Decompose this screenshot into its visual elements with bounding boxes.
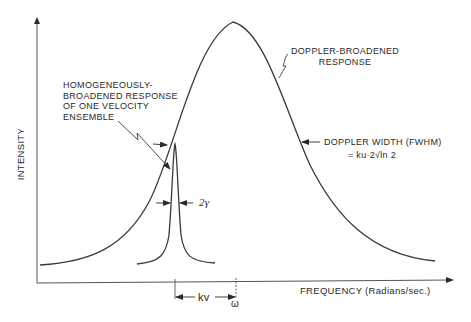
homogeneous-label-line-2: BROADENED RESPONSE	[63, 91, 178, 102]
x-axis-label: FREQUENCY (Radians/sec.)	[300, 286, 431, 297]
homogeneous-label-line-1: HOMOGENEOUSLY-	[63, 80, 178, 91]
y-axis-label: INTENSITY	[16, 130, 27, 180]
homogeneous-label-line-3: OF ONE VELOCITY	[63, 101, 178, 112]
doppler-pointer-arrow	[153, 144, 167, 145]
doppler-response-line-2: RESPONSE	[291, 57, 399, 68]
omega-label: ω	[231, 299, 239, 310]
doppler-response-leader	[279, 54, 288, 78]
doppler-response-label: DOPPLER-BROADENED RESPONSE	[291, 46, 399, 67]
linewidth-label: 2γ	[199, 197, 209, 208]
doppler-width-formula: = ku·2√ln 2	[348, 150, 396, 161]
kv-label: kv	[198, 292, 210, 303]
y-axis	[34, 17, 40, 283]
x-axis	[37, 277, 454, 283]
doppler-response-line-1: DOPPLER-BROADENED	[291, 46, 399, 57]
homogeneous-label-line-4: ENSEMBLE	[63, 112, 178, 123]
homogeneous-label: HOMOGENEOUSLY- BROADENED RESPONSE OF ONE…	[63, 80, 178, 122]
doppler-width-label: DOPPLER WIDTH (FWHM)	[324, 137, 442, 148]
diagram-canvas	[0, 0, 471, 322]
